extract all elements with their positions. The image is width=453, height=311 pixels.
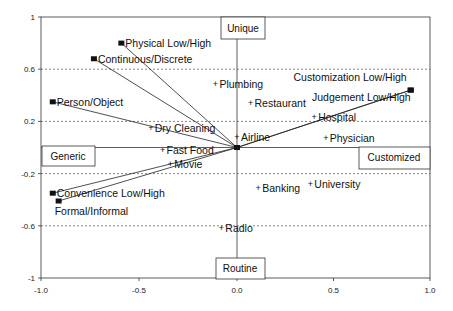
square-marker	[56, 199, 62, 204]
plus-marker: +	[148, 123, 153, 133]
unique-label: Unique	[227, 23, 259, 34]
x-tick-label: -0.5	[132, 286, 146, 295]
generic-label: Generic	[50, 151, 85, 162]
y-tick-label: -1	[28, 274, 36, 283]
service-label: University	[314, 178, 361, 190]
plus-marker: +	[219, 223, 224, 233]
service-label: Radio	[225, 222, 253, 234]
y-tick-label: 0.6	[24, 65, 36, 74]
quadrant-label-right: Customized	[359, 147, 430, 169]
plus-marker: +	[213, 79, 218, 89]
perceptual-map-chart: 10.60.2-0.2-0.6-1-1.0-0.50.00.51.0 Physi…	[0, 0, 453, 311]
attribute-label: Continuous/Discrete	[98, 53, 193, 65]
attribute-label: Judgement Low/High	[312, 91, 411, 103]
y-tick-label: 0.2	[24, 117, 36, 126]
plus-marker: +	[256, 183, 261, 193]
x-tick-label: 1.0	[424, 286, 436, 295]
plus-marker: +	[323, 133, 328, 143]
x-tick-label: 0.5	[328, 286, 340, 295]
data-points: Physical Low/HighContinuous/DiscretePers…	[50, 37, 414, 234]
plus-marker: +	[248, 98, 253, 108]
y-tick-label: -0.6	[21, 222, 35, 231]
square-marker	[118, 41, 124, 46]
y-tick-label: -0.2	[21, 170, 35, 179]
service-label: Restaurant	[255, 97, 306, 109]
customized-label: Customized	[368, 152, 421, 163]
attribute-label: Physical Low/High	[125, 37, 211, 49]
attribute-label: Person/Object	[57, 96, 124, 108]
plus-marker: +	[312, 112, 317, 122]
service-label: Dry Cleaning	[155, 122, 216, 134]
plus-marker: +	[168, 159, 173, 169]
service-label: Physician	[330, 132, 375, 144]
service-label: Fast Food	[167, 144, 214, 156]
square-marker	[91, 56, 97, 61]
attribute-label: Formal/Informal	[55, 205, 129, 217]
origin-marker	[234, 145, 240, 150]
service-label: Movie	[174, 158, 202, 170]
service-label: Banking	[262, 182, 300, 194]
service-label: Hospital	[318, 111, 356, 123]
square-marker	[50, 191, 56, 196]
quadrant-label-bottom: Routine	[216, 258, 265, 279]
plus-marker: +	[308, 179, 313, 189]
routine-label: Routine	[223, 263, 258, 274]
plus-marker: +	[234, 132, 239, 142]
service-label: Airline	[241, 131, 270, 143]
x-tick-label: -1.0	[34, 286, 48, 295]
quadrant-label-left: Generic	[42, 146, 95, 166]
attribute-label: Customization Low/High	[293, 71, 406, 83]
quadrant-label-top: Unique	[221, 17, 265, 39]
y-tick-label: 1	[31, 13, 36, 22]
square-marker	[50, 99, 56, 104]
attribute-label: Convenience Low/High	[57, 187, 165, 199]
plus-marker: +	[160, 145, 165, 155]
x-tick-label: 0.0	[231, 286, 243, 295]
service-label: Plumbing	[219, 78, 263, 90]
